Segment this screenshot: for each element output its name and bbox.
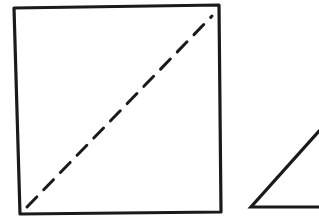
diagram-canvas: [0, 0, 319, 222]
background: [0, 0, 319, 222]
